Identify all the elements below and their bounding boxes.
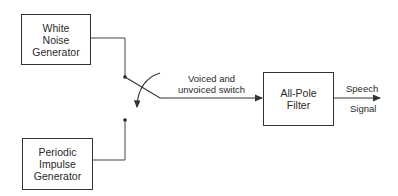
block-label: White: [43, 22, 70, 34]
switch-label-line: Voiced and: [178, 73, 245, 84]
switch-toggle-arrow-icon: [137, 73, 160, 107]
periodic-impulse-wire: [92, 120, 125, 160]
block-label: Periodic: [39, 146, 77, 158]
switch-label-line: unvoiced switch: [178, 84, 245, 95]
all-pole-filter-block: All-Pole Filter: [263, 72, 334, 126]
block-label: Generator: [34, 170, 81, 182]
block-label: All-Pole: [280, 87, 316, 99]
block-label: Filter: [287, 99, 310, 111]
block-label: Generator: [32, 46, 79, 58]
block-label: Impulse: [39, 158, 76, 170]
switch-label: Voiced and unvoiced switch: [178, 73, 245, 95]
output-label-top: Speech: [346, 83, 378, 94]
white-noise-wire: [90, 38, 125, 77]
block-label: Noise: [43, 34, 70, 46]
periodic-impulse-generator-block: Periodic Impulse Generator: [22, 138, 93, 190]
output-label-bottom: Signal: [350, 103, 376, 114]
white-noise-generator-block: White Noise Generator: [21, 14, 91, 65]
